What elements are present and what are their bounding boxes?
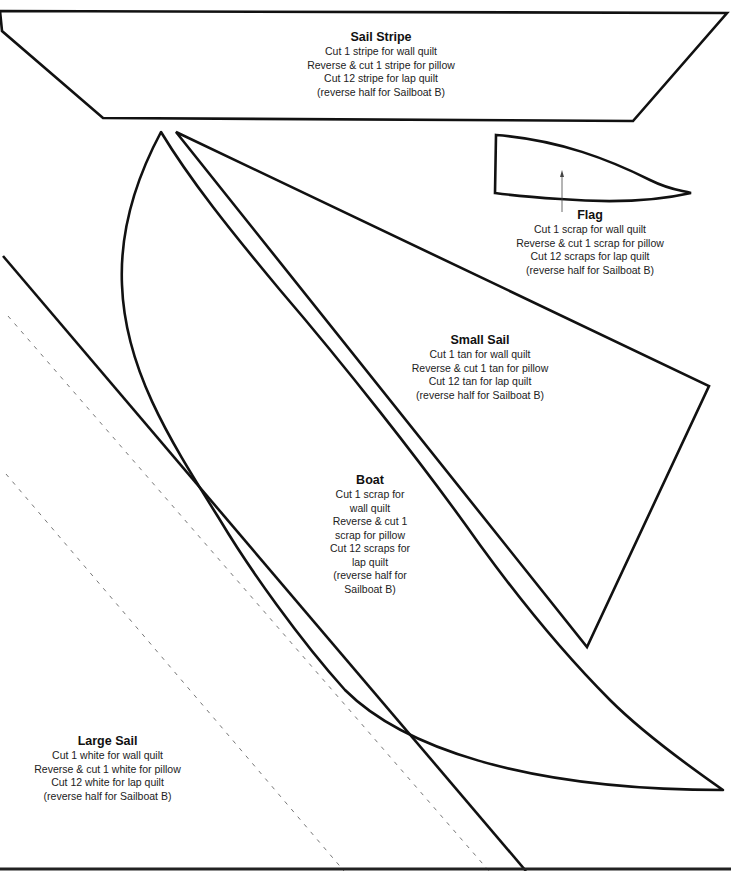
cut-instruction: (reverse half for Sailboat B) [276,86,486,100]
cut-instruction: Cut 1 tan for wall quilt [380,348,580,362]
piece-title: Large Sail [0,734,215,749]
seam-line-dashed [6,474,344,871]
cut-instruction: (reverse half for Sailboat B) [380,389,580,403]
cut-instruction: scrap for pillow [310,529,430,543]
cut-instruction: Reverse & cut 1 tan for pillow [380,362,580,376]
cut-instruction: (reverse half for Sailboat B) [0,790,215,804]
cut-instruction: (reverse half for [310,569,430,583]
cut-instruction: Cut 1 stripe for wall quilt [276,45,486,59]
piece-title: Sail Stripe [276,30,486,45]
flag-label: Flag Cut 1 scrap for wall quilt Reverse … [485,208,695,277]
cut-instruction: Cut 12 tan for lap quilt [380,375,580,389]
flag-outline [495,135,691,201]
piece-title: Small Sail [380,333,580,348]
piece-title: Boat [310,473,430,488]
cut-instruction: Cut 12 stripe for lap quilt [276,72,486,86]
cut-instruction: Reverse & cut 1 stripe for pillow [276,59,486,73]
large-sail-label: Large Sail Cut 1 white for wall quilt Re… [0,734,215,803]
cut-instruction: (reverse half for Sailboat B) [485,264,695,278]
cut-instruction: Cut 12 white for lap quilt [0,776,215,790]
cut-instruction: wall quilt [310,502,430,516]
piece-title: Flag [485,208,695,223]
cut-instruction: Reverse & cut 1 white for pillow [0,763,215,777]
cut-instruction: Cut 1 scrap for [310,488,430,502]
cut-instruction: Cut 12 scraps for lap quilt [485,250,695,264]
cut-instruction: Reverse & cut 1 [310,515,430,529]
small-sail-label: Small Sail Cut 1 tan for wall quilt Reve… [380,333,580,402]
cut-instruction: Reverse & cut 1 scrap for pillow [485,237,695,251]
flag-arrow-head [560,170,564,177]
cut-instruction: Cut 1 white for wall quilt [0,749,215,763]
cut-instruction: Cut 1 scrap for wall quilt [485,223,695,237]
cut-instruction: Sailboat B) [310,583,430,597]
sail-stripe-label: Sail Stripe Cut 1 stripe for wall quilt … [276,30,486,99]
cut-instruction: lap quilt [310,556,430,570]
cut-instruction: Cut 12 scraps for [310,542,430,556]
boat-label: Boat Cut 1 scrap for wall quilt Reverse … [310,473,430,596]
